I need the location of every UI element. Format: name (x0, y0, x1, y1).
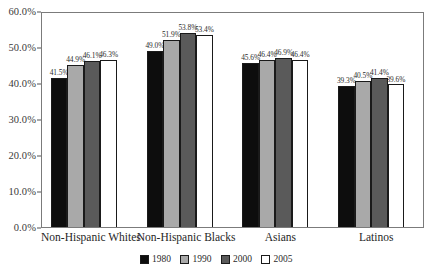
bar-value-label: 41.5% (50, 69, 69, 76)
legend-item[interactable]: 1990 (180, 255, 212, 265)
y-axis: 0.0%10.0%20.0%30.0%40.0%50.0%60.0% (0, 12, 41, 228)
bar-group: 41.5%44.9%46.1%46.3% (42, 13, 138, 227)
bar[interactable] (275, 58, 292, 227)
bar-value-label: 51.9% (162, 31, 181, 38)
bar[interactable] (338, 86, 355, 227)
bar-column: 49.0% (147, 13, 164, 227)
legend-item[interactable]: 2005 (261, 255, 293, 265)
legend-label: 2000 (233, 255, 252, 265)
bar[interactable] (180, 33, 197, 227)
y-axis-tick-label: 40.0% (8, 79, 36, 90)
y-axis-tick-label: 30.0% (8, 115, 36, 126)
y-axis-tick-label: 60.0% (8, 7, 36, 18)
bar-group: 45.6%46.4%46.9%46.4% (234, 13, 330, 227)
bar[interactable] (388, 84, 405, 227)
bar-value-label: 53.4% (195, 26, 214, 33)
bar-group-bars: 49.0%51.9%53.8%53.4% (138, 13, 243, 227)
plot-area: 41.5%44.9%46.1%46.3%49.0%51.9%53.8%53.4%… (41, 12, 424, 228)
legend-label: 1980 (152, 255, 171, 265)
bar-column: 45.6% (242, 13, 259, 227)
bar-value-label: 49.0% (145, 42, 164, 49)
bar-column: 46.3% (100, 13, 117, 227)
bar[interactable] (292, 60, 309, 227)
bar-column: 41.4% (371, 13, 388, 227)
bar-value-label: 46.4% (291, 51, 310, 58)
bar[interactable] (163, 40, 180, 227)
y-axis-tick-label: 20.0% (8, 151, 36, 162)
bar[interactable] (259, 60, 276, 227)
bar[interactable] (100, 60, 117, 227)
bar-column: 44.9% (67, 13, 84, 227)
bar-value-label: 46.3% (99, 51, 118, 58)
bar-column: 40.5% (355, 13, 372, 227)
bar-column: 46.4% (292, 13, 309, 227)
legend-label: 1990 (193, 255, 212, 265)
bar-value-label: 39.6% (386, 76, 405, 83)
bar[interactable] (147, 51, 164, 227)
bar-column: 53.8% (180, 13, 197, 227)
x-axis-category-label: Non-Hispanic Blacks (137, 230, 233, 244)
bar[interactable] (371, 78, 388, 227)
bar-group-bars: 45.6%46.4%46.9%46.4% (234, 13, 339, 227)
bar-column: 46.4% (259, 13, 276, 227)
legend-label: 2005 (274, 255, 293, 265)
bar-column: 39.3% (338, 13, 355, 227)
bar-group: 39.3%40.5%41.4%39.6% (329, 13, 425, 227)
bar-group-bars: 39.3%40.5%41.4%39.6% (329, 13, 432, 227)
x-axis-category-label: Non-Hispanic Whites (41, 230, 137, 244)
legend-item[interactable]: 1980 (140, 255, 172, 265)
y-axis-tick-label: 50.0% (8, 43, 36, 54)
bar-chart: 0.0%10.0%20.0%30.0%40.0%50.0%60.0% 41.5%… (0, 0, 432, 275)
bar-group-bars: 41.5%44.9%46.1%46.3% (42, 13, 147, 227)
plot-inner: 41.5%44.9%46.1%46.3%49.0%51.9%53.8%53.4%… (42, 13, 423, 227)
bar[interactable] (242, 63, 259, 227)
bar-column: 51.9% (163, 13, 180, 227)
x-axis-category-labels: Non-Hispanic WhitesNon-Hispanic BlacksAs… (41, 230, 424, 248)
legend-swatch-icon (180, 255, 189, 264)
bar[interactable] (355, 81, 372, 227)
y-axis-tick-label: 0.0% (14, 223, 36, 234)
bar-column: 41.5% (51, 13, 68, 227)
bar-column: 46.1% (84, 13, 101, 227)
x-axis-category-label: Asians (233, 230, 329, 244)
legend-swatch-icon (140, 255, 149, 264)
y-axis-tick-label: 10.0% (8, 187, 36, 198)
legend-item[interactable]: 2000 (221, 255, 253, 265)
bar-column: 53.4% (196, 13, 213, 227)
bar-column: 46.9% (275, 13, 292, 227)
chart-legend: 1980199020002005 (0, 255, 432, 265)
bar[interactable] (67, 65, 84, 227)
bar[interactable] (51, 78, 68, 227)
legend-swatch-icon (261, 255, 270, 264)
bar[interactable] (84, 61, 101, 227)
legend-swatch-icon (221, 255, 230, 264)
bar-group: 49.0%51.9%53.8%53.4% (138, 13, 234, 227)
x-axis-category-label: Latinos (328, 230, 424, 244)
bar[interactable] (196, 35, 213, 227)
bar-column: 39.6% (388, 13, 405, 227)
